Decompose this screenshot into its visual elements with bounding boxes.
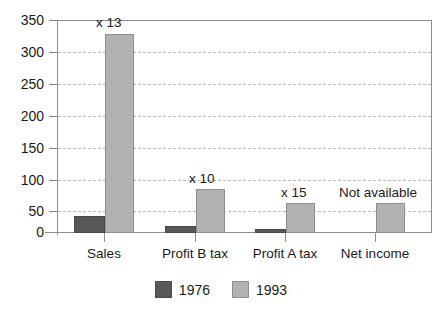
y-tick-150 — [49, 148, 58, 149]
y-axis-label-300: 300 — [2, 45, 44, 59]
y-axis-label-0: 0 — [2, 225, 44, 239]
y-axis-label-350: 350 — [2, 13, 44, 27]
annotation-sales: x 13 — [96, 15, 122, 30]
x-tick-profit-b-tax — [195, 233, 196, 242]
y-tick-300 — [49, 52, 58, 53]
y-axis-label-250: 250 — [2, 77, 44, 91]
legend-label-1993: 1993 — [256, 283, 287, 297]
x-axis-label-sales: Sales — [64, 246, 144, 262]
y-tick-200 — [49, 116, 58, 117]
y-tick-250 — [49, 84, 58, 85]
y-tick-100 — [49, 180, 58, 181]
bar-profit-a-tax-1993 — [286, 203, 315, 233]
bar-net-income-1993 — [376, 203, 405, 233]
bar-profit-a-tax-1976 — [255, 229, 286, 233]
annotation-profit-a-tax: x 15 — [281, 185, 307, 200]
bar-chart: 350 300 250 200 150 100 50 0 x 13 Sales … — [0, 0, 442, 317]
chart-legend: 1976 1993 — [0, 281, 442, 298]
x-tick-net-income — [375, 233, 376, 242]
annotation-profit-b-tax: x 10 — [189, 171, 215, 186]
annotation-net-income: Not available — [339, 185, 417, 200]
y-tick-350 — [49, 20, 58, 21]
x-axis-label-profit-b-tax: Profit B tax — [150, 246, 240, 262]
legend-swatch-1976-icon — [155, 281, 172, 298]
x-axis-label-net-income: Net income — [330, 246, 420, 262]
y-axis-label-150: 150 — [2, 141, 44, 155]
x-axis-label-profit-a-tax: Profit A tax — [240, 246, 330, 262]
y-axis-label-100: 100 — [2, 173, 44, 187]
x-tick-sales — [104, 233, 105, 242]
y-tick-0 — [49, 232, 58, 233]
legend-swatch-1993-icon — [232, 281, 249, 298]
bar-sales-1993 — [105, 34, 134, 233]
x-tick-profit-a-tax — [285, 233, 286, 242]
legend-item-1993: 1993 — [232, 281, 287, 298]
legend-item-1976: 1976 — [155, 281, 210, 298]
legend-label-1976: 1976 — [179, 283, 210, 297]
bar-sales-1976 — [74, 216, 105, 233]
y-axis-label-200: 200 — [2, 109, 44, 123]
bar-profit-b-tax-1976 — [165, 226, 196, 233]
y-axis-label-50: 50 — [2, 204, 44, 218]
bar-profit-b-tax-1993 — [196, 189, 225, 233]
y-tick-50 — [49, 211, 58, 212]
